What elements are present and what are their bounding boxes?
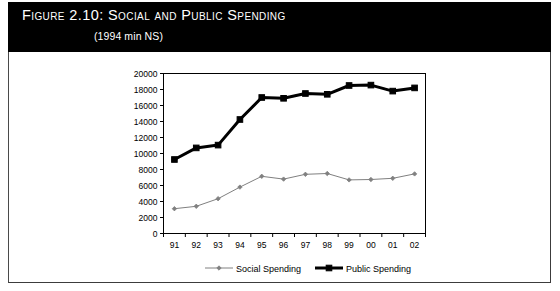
figure-header-band: Figure 2.10: Social and Public Spending …	[8, 2, 551, 52]
figure-subtitle: (1994 min NS)	[94, 30, 163, 42]
page-title: Figure 2.10: Social and Public Spending	[22, 7, 286, 23]
figure-container: Figure 2.10: Social and Public Spending …	[0, 0, 560, 291]
figure-panel	[8, 52, 551, 283]
